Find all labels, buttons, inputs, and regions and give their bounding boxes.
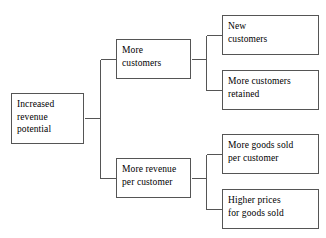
- node-more-customers[interactable]: More customers: [116, 39, 191, 79]
- node-increased-revenue-potential[interactable]: Increased revenue potential: [11, 93, 84, 144]
- node-higher-prices-for-goods-sold[interactable]: Higher prices for goods sold: [222, 189, 319, 229]
- node-more-goods-sold-per-customer[interactable]: More goods sold per customer: [222, 134, 319, 174]
- diagram-canvas: Increased revenue potential More custome…: [0, 0, 326, 238]
- node-more-revenue-per-customer[interactable]: More revenue per customer: [116, 158, 191, 198]
- node-more-customers-retained[interactable]: More customers retained: [222, 70, 319, 110]
- node-new-customers[interactable]: New customers: [222, 15, 319, 55]
